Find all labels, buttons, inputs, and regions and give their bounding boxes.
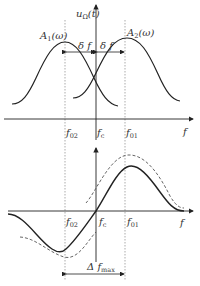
tick-fc-top: fc <box>96 127 105 140</box>
tick-f02-bottom: f02 <box>65 216 78 229</box>
bottom-x-axis-label: f <box>179 217 186 228</box>
delta-f-max-label: Δ fmax <box>86 261 115 274</box>
curve-dashed-upper <box>86 155 184 208</box>
top-x-axis-label: f <box>182 126 189 137</box>
discriminator-diagram: uΩ(t) A1(ω) A2(ω) δ f δ f f02 fc f01 f f… <box>0 0 200 286</box>
tick-fc-bottom: fc <box>98 216 107 229</box>
delta-f-left-label: δ f <box>78 40 93 51</box>
tick-f02-top: f02 <box>65 127 78 140</box>
tick-f01-bottom: f01 <box>126 216 139 229</box>
curve-A1-label: A1(ω) <box>39 30 67 43</box>
tick-f01-top: f01 <box>125 127 138 140</box>
curve-dashed <box>20 232 96 258</box>
